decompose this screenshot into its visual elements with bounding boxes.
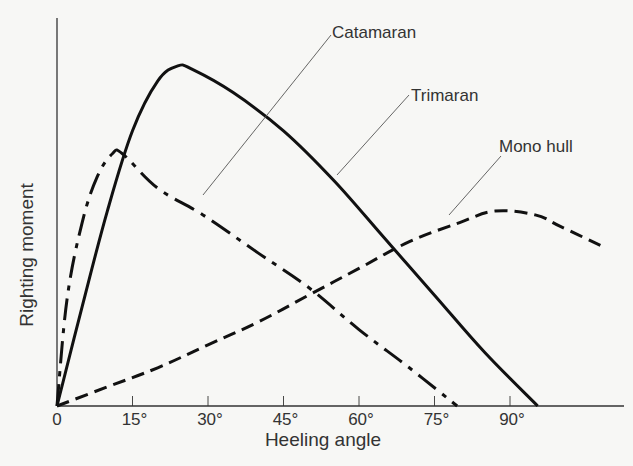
y-axis-label: Righting moment — [16, 182, 37, 326]
series-group — [57, 65, 601, 406]
x-tick-label: 90° — [499, 410, 525, 429]
trimaran-leader-line — [337, 95, 409, 175]
mono-hull-curve — [57, 211, 601, 406]
trimaran-label: Trimaran — [411, 86, 478, 105]
x-tick-label: 45° — [273, 410, 299, 429]
catamaran-leader-line — [203, 35, 331, 195]
x-axis-label: Heeling angle — [265, 429, 381, 450]
x-tick-label: 75° — [424, 410, 450, 429]
leader-lines — [203, 35, 501, 215]
righting-moment-chart: 015°30°45°60°75°90° Catamaran Trimaran M… — [0, 0, 633, 466]
x-ticks: 015°30°45°60°75°90° — [52, 396, 525, 429]
trimaran-curve — [57, 65, 538, 406]
axes: 015°30°45°60°75°90° — [52, 18, 624, 429]
x-tick-label: 0 — [52, 410, 61, 429]
monohull-leader-line — [449, 156, 501, 215]
x-tick-label: 60° — [348, 410, 374, 429]
monohull-label: Mono hull — [499, 137, 573, 156]
catamaran-curve — [57, 150, 457, 406]
x-tick-label: 30° — [197, 410, 223, 429]
catamaran-label: Catamaran — [332, 23, 416, 42]
x-tick-label: 15° — [122, 410, 148, 429]
